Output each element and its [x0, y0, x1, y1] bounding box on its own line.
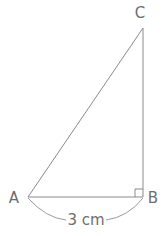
- dimension-arc-left: [28, 198, 66, 220]
- right-angle-marker: [135, 189, 143, 197]
- triangle-diagram: A B C 3 cm: [0, 0, 168, 236]
- dimension-label-base: 3 cm: [67, 211, 104, 229]
- vertex-label-c: C: [135, 4, 145, 22]
- vertex-label-a: A: [9, 189, 20, 207]
- dimension-arc-right: [106, 198, 143, 220]
- vertex-label-b: B: [148, 189, 158, 207]
- hypotenuse-side-ac: [28, 28, 143, 197]
